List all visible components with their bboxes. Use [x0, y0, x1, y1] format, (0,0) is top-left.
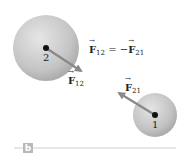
f21-subscript: 21 [135, 49, 144, 57]
f12-subscript: 12 [96, 49, 105, 57]
equation-label: F12 = −F21 [89, 45, 144, 57]
force-diagram: 2 1 F12 = −F21 F12 F21 b [0, 0, 186, 158]
particle-1-label: 1 [152, 120, 158, 130]
diagram-canvas [0, 0, 186, 158]
particle-1-center-dot [152, 112, 158, 118]
f12-label-symbol: F [68, 76, 75, 86]
equation-operator: = − [108, 44, 128, 55]
f21-symbol: F [128, 45, 135, 55]
f21-label-symbol: F [125, 83, 132, 93]
f12-symbol: F [89, 45, 96, 55]
f21-label-subscript: 21 [132, 87, 141, 95]
panel-label-badge: b [23, 143, 33, 153]
f12-label-subscript: 12 [75, 80, 84, 88]
particle-2-label: 2 [43, 53, 49, 63]
force-f12-label: F12 [68, 76, 84, 88]
particle-2-center-dot [43, 45, 49, 51]
force-f21-label: F21 [125, 83, 141, 95]
